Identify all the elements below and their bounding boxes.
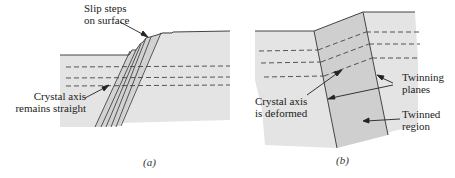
label-twinning-planes: Twinning planes: [402, 71, 444, 95]
caption-a: (a): [143, 156, 156, 168]
label-text: Twinning: [402, 71, 444, 83]
label-axis-straight: Crystal axis remains straight: [14, 90, 86, 114]
caption-b: (b): [336, 154, 349, 166]
label-text: Slip steps: [84, 2, 130, 14]
label-text: planes: [402, 83, 444, 95]
panel-b-twinning: [255, 12, 420, 148]
label-text: on surface: [84, 14, 130, 26]
label-text: remains straight: [14, 102, 86, 114]
label-text: Twinned: [402, 108, 440, 120]
label-twinned-region: Twinned region: [402, 108, 440, 132]
arrowhead-icon: [141, 31, 148, 37]
label-text: Crystal axis: [14, 90, 86, 102]
deformation-diagram: [0, 0, 455, 178]
label-text: is deformed: [255, 107, 307, 119]
label-slip-steps: Slip steps on surface: [84, 2, 130, 26]
label-axis-deformed: Crystal axis is deformed: [255, 95, 307, 119]
label-text: Crystal axis: [255, 95, 307, 107]
label-text: region: [402, 120, 440, 132]
